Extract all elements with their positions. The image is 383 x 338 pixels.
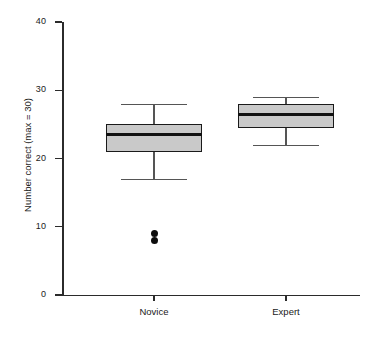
y-tick-mark [55, 90, 62, 91]
x-tick-label-novice: Novice [114, 307, 194, 317]
median-line-expert [238, 113, 334, 116]
box-novice [106, 124, 202, 151]
y-tick-label: 20 [22, 154, 46, 163]
whisker-lower-novice [153, 152, 154, 179]
x-tick-mark [285, 295, 286, 301]
x-tick-label-expert: Expert [246, 307, 326, 317]
whisker-upper-novice [153, 104, 154, 124]
y-tick-mark [55, 294, 62, 295]
whisker-lower-expert [285, 128, 286, 145]
y-axis-line [62, 22, 64, 296]
whisker-cap-upper-novice [121, 104, 186, 105]
x-axis-line [62, 295, 360, 297]
y-tick-mark [55, 226, 62, 227]
y-tick-mark [55, 158, 62, 159]
y-tick-label: 10 [22, 222, 46, 231]
y-tick-label: 30 [22, 85, 46, 94]
box-expert [238, 104, 334, 128]
whisker-cap-lower-novice [121, 179, 186, 180]
whisker-cap-lower-expert [253, 145, 318, 146]
box-plot-chart: Number correct (max = 30) 010203040 Novi… [0, 0, 383, 338]
outlier-point-novice [151, 237, 158, 244]
y-tick-label: 0 [22, 290, 46, 299]
y-tick-mark [55, 21, 62, 22]
y-tick-label: 40 [22, 17, 46, 26]
whisker-cap-upper-expert [253, 97, 318, 98]
x-tick-mark [153, 295, 154, 301]
median-line-novice [106, 133, 202, 136]
